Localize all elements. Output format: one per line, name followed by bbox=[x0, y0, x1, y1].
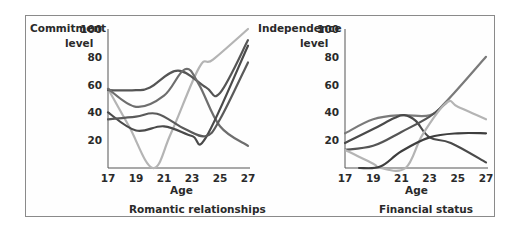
series-line-a bbox=[108, 29, 248, 168]
x-tick-label: 17 bbox=[101, 172, 116, 184]
y-tick-label: 20 bbox=[87, 134, 102, 146]
y-tick-label: 80 bbox=[324, 51, 339, 63]
x-tick-label: 25 bbox=[450, 172, 465, 184]
y-tick-label: 100 bbox=[317, 23, 339, 35]
x-tick-label: 21 bbox=[157, 172, 172, 184]
chart-canvas: 2040608010017192123252720406080100171921… bbox=[0, 0, 528, 233]
series-line-c bbox=[345, 103, 447, 150]
x-tick-label: 27 bbox=[479, 172, 494, 184]
x-tick-label: 25 bbox=[213, 172, 228, 184]
y-tick-label: 60 bbox=[87, 79, 102, 91]
x-tick-label: 21 bbox=[394, 172, 409, 184]
financial-status-chart: 20406080100171921232527 bbox=[317, 23, 493, 184]
y-tick-label: 20 bbox=[324, 134, 339, 146]
y-tick-label: 80 bbox=[87, 51, 102, 63]
series-line-d bbox=[345, 101, 486, 171]
series-line-d bbox=[108, 46, 248, 145]
romantic-relationships-chart: 20406080100171921232527 bbox=[80, 23, 255, 184]
y-tick-label: 60 bbox=[324, 79, 339, 91]
x-tick-label: 19 bbox=[129, 172, 144, 184]
y-tick-label: 100 bbox=[80, 23, 102, 35]
x-tick-label: 23 bbox=[422, 172, 437, 184]
y-tick-label: 40 bbox=[87, 106, 102, 118]
x-tick-label: 19 bbox=[366, 172, 381, 184]
y-tick-label: 40 bbox=[324, 106, 339, 118]
x-tick-label: 27 bbox=[241, 172, 256, 184]
x-tick-label: 23 bbox=[185, 172, 200, 184]
x-tick-label: 17 bbox=[338, 172, 353, 184]
